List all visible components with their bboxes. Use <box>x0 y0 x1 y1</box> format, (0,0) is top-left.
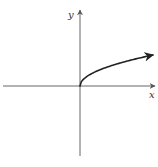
x-axis-label: x <box>149 90 155 100</box>
sqrt-curve <box>80 55 153 86</box>
y-axis-label: y <box>68 10 74 20</box>
square-root-graph <box>0 0 158 167</box>
